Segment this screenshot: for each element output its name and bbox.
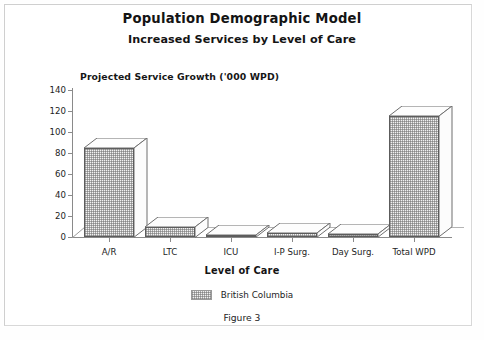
x-axis-title: Level of Care <box>0 265 484 276</box>
figure-caption: Figure 3 <box>0 312 484 323</box>
title-block: Population Demographic Model Increased S… <box>0 11 484 46</box>
figure-page: Population Demographic Model Increased S… <box>0 0 484 340</box>
chart-title: Population Demographic Model <box>0 11 484 28</box>
chart-subtitle: Increased Services by Level of Care <box>0 33 484 46</box>
legend-label: British Columbia <box>221 290 293 300</box>
legend-swatch-icon <box>191 290 212 300</box>
figure-frame <box>4 4 472 326</box>
chart-legend: British Columbia <box>0 290 484 300</box>
y-axis-title: Projected Service Growth ('000 WPD) <box>80 71 279 82</box>
